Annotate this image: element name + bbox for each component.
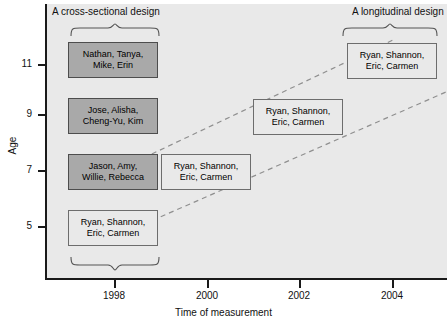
y-tick-label-5: 5	[2, 221, 32, 231]
longitudinal-group-box-2002: Ryan, Shannon, Eric, Carmen	[253, 99, 343, 135]
group-names-line1: Jose, Alisha,	[72, 105, 154, 116]
x-tick-label-2000: 2000	[177, 290, 237, 301]
y-axis-title: Age	[7, 122, 18, 170]
y-tick-label-11: 11	[2, 59, 32, 69]
group-names-line1: Ryan, Shannon,	[351, 50, 433, 61]
cross-sectional-brace-bottom	[70, 256, 160, 272]
cross-sectional-group-box-3: Jason, Amy, Willie, Rebecca	[68, 154, 158, 190]
longitudinal-heading: A longitudinal design	[352, 6, 444, 17]
longitudinal-group-box-2004: Ryan, Shannon, Eric, Carmen	[347, 43, 437, 79]
group-names-line2: Mike, Erin	[72, 60, 154, 71]
group-names-line2: Cheng-Yu, Kim	[72, 116, 154, 127]
longitudinal-group-box-2000: Ryan, Shannon, Eric, Carmen	[161, 154, 251, 190]
x-tick-mark-2000	[207, 280, 209, 288]
group-names-line1: Ryan, Shannon,	[165, 161, 247, 172]
cross-sectional-vs-longitudinal-figure: Age 11 9 7 5 1998 2000 2002 2004 Time of…	[0, 0, 447, 317]
cross-sectional-group-box-1: Nathan, Tanya, Mike, Erin	[68, 42, 158, 78]
y-tick-mark-11	[38, 64, 46, 66]
y-tick-mark-9	[38, 114, 46, 116]
cross-sectional-brace-top	[70, 23, 160, 37]
group-names-line1: Nathan, Tanya,	[72, 49, 154, 60]
x-tick-mark-1998	[114, 280, 116, 288]
x-tick-label-2002: 2002	[269, 290, 329, 301]
group-names-line1: Ryan, Shannon,	[72, 217, 154, 228]
y-tick-mark-7	[38, 170, 46, 172]
x-axis-title: Time of measurement	[0, 307, 447, 317]
x-tick-mark-2004	[392, 280, 394, 288]
group-names-line2: Eric, Carmen	[72, 228, 154, 239]
y-tick-label-9: 9	[2, 109, 32, 119]
group-names-line1: Ryan, Shannon,	[257, 106, 339, 117]
cross-sectional-group-box-2: Jose, Alisha, Cheng-Yu, Kim	[68, 98, 158, 134]
cross-sectional-heading: A cross-sectional design	[52, 6, 160, 17]
x-tick-mark-2002	[299, 280, 301, 288]
group-names-line2: Eric, Carmen	[257, 117, 339, 128]
group-names-line2: Eric, Carmen	[165, 172, 247, 183]
group-names-line2: Eric, Carmen	[351, 61, 433, 72]
x-tick-label-1998: 1998	[84, 290, 144, 301]
group-names-line1: Jason, Amy,	[72, 161, 154, 172]
x-tick-label-2004: 2004	[362, 290, 422, 301]
longitudinal-brace-top	[342, 23, 438, 37]
longitudinal-group-box-1998: Ryan, Shannon, Eric, Carmen	[68, 210, 158, 246]
y-tick-label-7: 7	[2, 165, 32, 175]
y-tick-mark-5	[38, 226, 46, 228]
group-names-line2: Willie, Rebecca	[72, 172, 154, 183]
